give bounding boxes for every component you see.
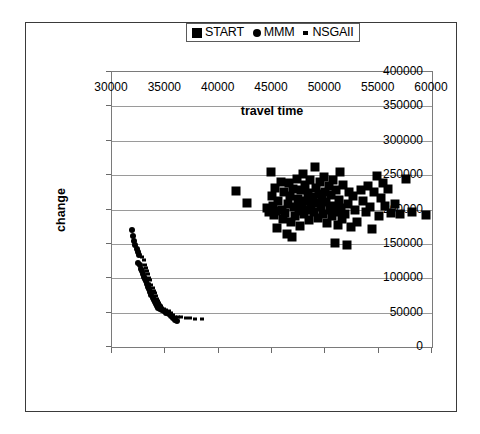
data-point-start — [288, 233, 297, 242]
data-point-nsgaii — [142, 259, 146, 262]
x-axis-tick-label: 60000 — [414, 80, 447, 94]
data-point-start — [374, 211, 383, 220]
x-axis-tick-label: 30000 — [94, 80, 127, 94]
legend-marker-circle-icon — [253, 29, 261, 37]
data-point-start — [231, 186, 240, 195]
plot-wrapper: 0500001000001500002000002500003000003500… — [111, 71, 433, 348]
legend-label-nsgaii: NSGAII — [312, 26, 353, 39]
y-axis-tick-label: 400000 — [383, 64, 423, 78]
data-point-nsgaii — [193, 317, 197, 320]
y-axis-tick — [106, 312, 111, 313]
data-point-start — [280, 208, 289, 217]
legend-label-start: START — [205, 26, 244, 39]
y-axis-tick — [106, 140, 111, 141]
y-axis-tick — [106, 174, 111, 175]
x-axis-tick-label: 50000 — [308, 80, 341, 94]
y-axis-tick — [106, 277, 111, 278]
x-axis-tick-label: 35000 — [148, 80, 181, 94]
data-point-start — [336, 167, 345, 176]
y-axis-tick-label: 50000 — [390, 305, 423, 319]
data-point-start — [266, 167, 275, 176]
legend-entry-nsgaii: NSGAII — [303, 26, 353, 39]
data-point-start — [340, 210, 349, 219]
y-axis-tick-label: 200000 — [383, 202, 423, 216]
legend-marker-small-square-icon — [303, 31, 308, 35]
y-axis-tick-label: 250000 — [383, 167, 423, 181]
x-axis-tick-label: 40000 — [201, 80, 234, 94]
legend-label-mmm: MMM — [264, 26, 295, 39]
gridline-horizontal — [112, 313, 432, 314]
x-axis-tick — [378, 348, 379, 353]
data-point-start — [342, 241, 351, 250]
data-point-start — [273, 224, 282, 233]
x-axis-tick — [218, 348, 219, 353]
data-point-start — [368, 224, 377, 233]
y-axis-tick-label: 0 — [416, 339, 423, 353]
x-axis-tick-label: 55000 — [361, 80, 394, 94]
y-axis-tick — [106, 209, 111, 210]
chart-legend: START MMM NSGAII — [186, 23, 360, 42]
data-point-nsgaii — [188, 317, 192, 320]
data-point-start — [295, 222, 304, 231]
x-axis-title: travel time — [111, 104, 433, 118]
chart-frame: START MMM NSGAII 05000010000015000020000… — [25, 22, 457, 412]
data-point-start — [384, 184, 393, 193]
x-axis-tick — [111, 348, 112, 353]
x-axis-tick — [164, 348, 165, 353]
x-axis-tick — [324, 348, 325, 353]
legend-entry-mmm: MMM — [253, 26, 295, 39]
legend-entry-start: START — [192, 26, 244, 39]
y-axis-tick — [106, 346, 111, 347]
x-axis-tick — [431, 348, 432, 353]
x-axis-tick-label: 45000 — [254, 80, 287, 94]
y-axis-tick-label: 150000 — [383, 236, 423, 250]
data-point-start — [310, 162, 319, 171]
legend-marker-square-icon — [192, 28, 202, 38]
data-point-start — [353, 217, 362, 226]
y-axis-tick-label: 100000 — [383, 270, 423, 284]
y-axis-tick — [106, 71, 111, 72]
data-point-mmm — [129, 227, 135, 233]
y-axis-tick-label: 300000 — [383, 133, 423, 147]
y-axis-title: change — [54, 188, 68, 232]
y-axis-tick — [106, 243, 111, 244]
x-axis-tick — [271, 348, 272, 353]
data-point-start — [351, 205, 360, 214]
data-point-start — [328, 175, 337, 184]
data-point-start — [330, 238, 339, 247]
data-point-start — [243, 198, 252, 207]
data-point-nsgaii — [200, 317, 204, 320]
